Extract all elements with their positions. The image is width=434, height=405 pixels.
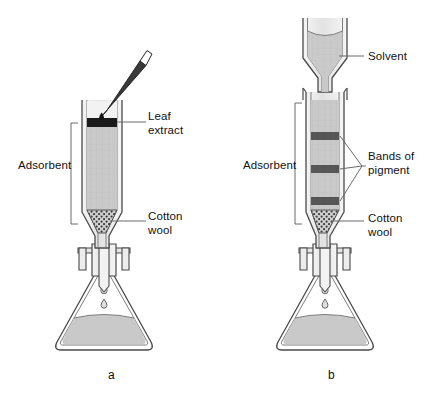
flask-stopper-b xyxy=(299,244,351,292)
pigment-band-3 xyxy=(311,197,339,205)
flask-liquid-b xyxy=(283,315,366,345)
chromatography-column-b xyxy=(303,88,347,248)
leaf-extract-label: Leaf extract xyxy=(148,110,183,137)
solvent-funnel-b xyxy=(303,18,347,92)
cotton-wool-label-b: Cotton wool xyxy=(368,212,402,239)
panel-a-apparatus xyxy=(56,51,153,351)
adsorbent-label-a: Adsorbent xyxy=(18,159,71,173)
bands-of-pigment-label: Bands of pigment xyxy=(368,150,414,177)
pigment-band-2 xyxy=(311,165,339,173)
adsorbent-packing-b xyxy=(311,100,339,210)
flask-stopper-a xyxy=(78,244,130,292)
pipette-body-a xyxy=(101,61,146,117)
chromatography-figure: Leaf extract Adsorbent Cotton wool Solve… xyxy=(0,0,434,405)
panel-caption-a: a xyxy=(108,368,115,382)
chromatography-column-a xyxy=(82,100,122,248)
adsorbent-label-b: Adsorbent xyxy=(243,159,296,173)
flask-liquid-a xyxy=(62,315,145,345)
adsorbent-packing-a xyxy=(87,127,117,210)
pipette-a xyxy=(99,51,152,120)
stopper-left-leg-a xyxy=(79,248,86,270)
solvent-liquid-b xyxy=(308,31,343,92)
stopper-right-leg-a xyxy=(122,248,129,270)
delivery-tube-a xyxy=(99,244,109,292)
delivery-tube-b xyxy=(320,244,330,292)
cotton-wool-label-a: Cotton wool xyxy=(148,210,182,237)
stopper-left-leg-b xyxy=(300,248,307,270)
adsorbent-bracket-a xyxy=(71,123,78,224)
pigment-band-1 xyxy=(311,132,339,140)
panel-caption-b: b xyxy=(328,368,335,382)
stopper-right-leg-b xyxy=(343,248,350,270)
panel-b-apparatus xyxy=(277,18,374,350)
solvent-label: Solvent xyxy=(368,50,407,64)
